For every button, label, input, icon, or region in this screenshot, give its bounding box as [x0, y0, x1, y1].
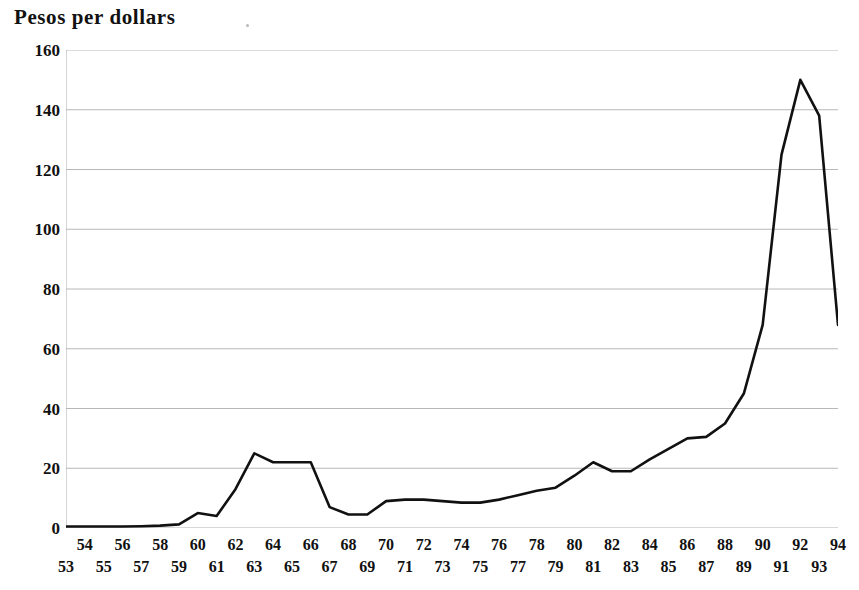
x-tick-label: 89: [736, 558, 752, 576]
page-title: Pesos per dollars: [14, 5, 175, 30]
x-tick-label: 90: [755, 536, 771, 554]
plot-area: [66, 50, 838, 528]
x-tick-label: 74: [453, 536, 469, 554]
x-tick-label: 57: [133, 558, 149, 576]
x-tick-label: 82: [604, 536, 620, 554]
x-tick-label: 81: [585, 558, 601, 576]
x-tick-label: 91: [774, 558, 790, 576]
x-tick-label: 58: [152, 536, 168, 554]
x-tick-label: 56: [114, 536, 130, 554]
x-tick-label: 87: [698, 558, 714, 576]
x-tick-label: 77: [510, 558, 526, 576]
x-tick-label: 71: [397, 558, 413, 576]
x-tick-label: 79: [548, 558, 564, 576]
chart-page: Pesos per dollars 160140120100806040200 …: [0, 0, 859, 590]
x-tick-label: 80: [566, 536, 582, 554]
x-tick-label: 84: [642, 536, 658, 554]
line-chart-svg: [66, 50, 838, 528]
x-tick-label: 83: [623, 558, 639, 576]
y-axis-labels: 160140120100806040200: [0, 50, 60, 528]
y-tick-label: 0: [2, 519, 60, 539]
y-tick-label: 160: [2, 41, 60, 61]
gridlines: [66, 50, 838, 528]
y-tick-label: 120: [2, 161, 60, 181]
y-tick-label: 80: [2, 280, 60, 300]
x-tick-label: 59: [171, 558, 187, 576]
x-tick-label: 88: [717, 536, 733, 554]
x-tick-label: 92: [792, 536, 808, 554]
y-tick-label: 100: [2, 220, 60, 240]
x-tick-label: 55: [96, 558, 112, 576]
x-tick-label: 69: [359, 558, 375, 576]
x-tick-label: 67: [322, 558, 338, 576]
x-tick-label: 93: [811, 558, 827, 576]
y-tick-label: 40: [2, 400, 60, 420]
data-series-line: [66, 80, 838, 527]
x-tick-label: 61: [209, 558, 225, 576]
x-tick-label: 73: [435, 558, 451, 576]
x-tick-label: 63: [246, 558, 262, 576]
x-tick-label: 54: [77, 536, 93, 554]
x-tick-label: 76: [491, 536, 507, 554]
x-axis-labels: 5456586062646668707274767880828486889092…: [66, 530, 838, 588]
y-tick-label: 60: [2, 340, 60, 360]
x-tick-label: 62: [227, 536, 243, 554]
x-tick-label: 94: [830, 536, 846, 554]
x-tick-label: 75: [472, 558, 488, 576]
x-tick-label: 72: [416, 536, 432, 554]
x-tick-label: 60: [190, 536, 206, 554]
x-tick-label: 53: [58, 558, 74, 576]
x-tick-label: 65: [284, 558, 300, 576]
scan-artifact-speck: [246, 24, 249, 27]
x-tick-label: 70: [378, 536, 394, 554]
x-tick-label: 85: [661, 558, 677, 576]
x-tick-label: 78: [529, 536, 545, 554]
x-tick-label: 64: [265, 536, 281, 554]
x-tick-label: 68: [340, 536, 356, 554]
x-tick-label: 66: [303, 536, 319, 554]
y-tick-label: 140: [2, 101, 60, 121]
y-tick-label: 20: [2, 459, 60, 479]
x-tick-label: 86: [679, 536, 695, 554]
